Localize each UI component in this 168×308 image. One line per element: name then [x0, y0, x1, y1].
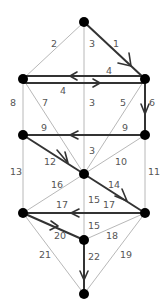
edge-label: 12 — [44, 156, 56, 167]
edge-12 — [23, 135, 84, 174]
edge-label: 20 — [54, 230, 66, 241]
edge-label: 8 — [10, 97, 16, 108]
edge-label: 3 — [89, 38, 95, 49]
node-left-5 — [18, 208, 28, 218]
edge-label: 9 — [122, 122, 128, 133]
edge-label: 1 — [113, 38, 119, 49]
edge-label: 15 — [88, 220, 100, 231]
edge-label: 2 — [51, 38, 57, 49]
edge-label: 4 — [106, 65, 112, 76]
edge-label: 15 — [88, 194, 100, 205]
edge-label: 22 — [88, 251, 100, 262]
edge-label: 17 — [56, 199, 68, 210]
edge-label: 5 — [120, 97, 126, 108]
node-center — [79, 169, 89, 179]
edge-label: 9 — [41, 122, 47, 133]
edge-1 — [84, 22, 145, 79]
edge-label: 16 — [51, 179, 63, 190]
node-left-3 — [18, 130, 28, 140]
node-right-3 — [140, 130, 150, 140]
node-bottom — [79, 289, 89, 299]
edge-label: 11 — [148, 166, 160, 177]
edge-label: 3 — [89, 145, 95, 156]
edge-2 — [23, 22, 84, 79]
edge-21 — [23, 213, 84, 294]
node-left-2 — [18, 74, 28, 84]
edge-label: 3 — [89, 97, 95, 108]
edge-label: 7 — [42, 97, 48, 108]
node-right-5 — [140, 208, 150, 218]
edge-label: 18 — [106, 230, 118, 241]
edge-label: 13 — [10, 166, 22, 177]
edge-label: 6 — [149, 97, 155, 108]
edge-label: 4 — [60, 85, 66, 96]
graph-diagram: 1 2 3 4 4 8 7 3 5 6 9 9 3 12 10 13 11 16… — [0, 0, 168, 308]
edge-label: 21 — [39, 249, 51, 260]
node-top — [79, 17, 89, 27]
node-right-2 — [140, 74, 150, 84]
node-lower-center — [79, 235, 89, 245]
edge-label: 10 — [115, 156, 127, 167]
edge-label: 17 — [103, 199, 115, 210]
edge-label: 19 — [120, 249, 132, 260]
edge-label: 14 — [108, 179, 120, 190]
